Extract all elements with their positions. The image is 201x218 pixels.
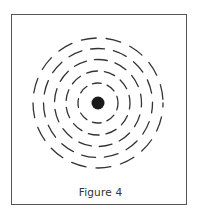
figure-caption: Figure 4 — [0, 186, 201, 198]
center-dot — [92, 97, 105, 110]
